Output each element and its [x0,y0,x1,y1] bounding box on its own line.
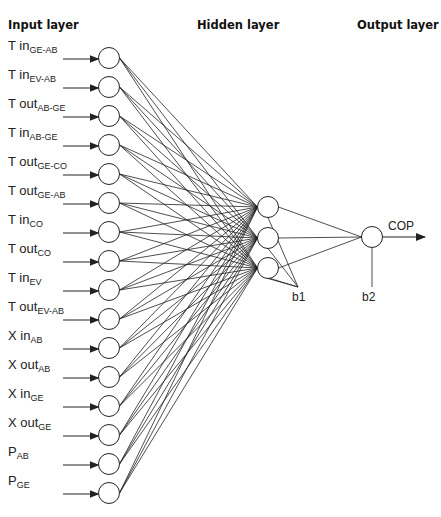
hidden-neuron [258,197,279,218]
input-neuron [99,164,120,185]
connection-line [120,238,258,493]
input-label: T outGE-AB [8,183,65,200]
connection-line [120,174,258,268]
input-label-subscript: AB-GE [37,103,65,113]
input-label-main: T in [8,125,29,140]
hidden-neuron [258,228,279,249]
input-label: T inGE-AB [8,38,57,55]
connection-line [120,203,258,268]
input-label-subscript: AB [38,364,50,374]
input-label: T inEV [8,270,41,287]
connection-line [279,237,362,268]
input-label-subscript: EV-AB [29,74,56,84]
input-label-subscript: CO [37,248,51,258]
input-label-subscript: GE-AB [29,45,57,55]
input-neuron [99,396,120,417]
input-label-subscript: EV-AB [37,306,64,316]
input-label-main: T out [8,241,37,256]
input-neuron [99,193,120,214]
connection-line [279,207,362,237]
input-label-main: T in [8,38,29,53]
input-neuron [99,367,120,388]
input-label-main: T in [8,212,29,227]
input-label: T inAB-GE [8,125,57,142]
input-label-subscript: GE [17,480,30,490]
connection-line [120,238,258,377]
connection-line [120,145,258,207]
input-label-main: T out [8,299,37,314]
input-label-subscript: GE [30,393,43,403]
output-neuron [362,227,383,248]
input-neuron [99,454,120,475]
input-label: X inGE [8,386,43,403]
input-label: T inEV-AB [8,67,56,84]
output-layer-title: Output layer [357,18,439,32]
input-label: X outAB [8,357,50,374]
neural-network-diagram [0,0,441,517]
input-neuron [99,425,120,446]
input-label: PGE [8,473,30,490]
input-label: T outAB-GE [8,96,65,113]
connection-line [120,238,258,435]
input-neuron [99,48,120,69]
hidden-neuron [258,258,279,279]
input-label: X inAB [8,328,42,345]
bias-label-b2: b2 [362,290,375,304]
input-neuron [99,135,120,156]
input-label-main: X out [8,415,38,430]
connection-line [279,237,362,238]
input-label-main: X in [8,328,30,343]
input-neuron [99,483,120,504]
input-label-subscript: AB [30,335,42,345]
input-label-subscript: GE-CO [37,161,67,171]
input-label-subscript: CO [29,219,43,229]
input-label-main: X out [8,357,38,372]
input-neuron [99,77,120,98]
hidden-layer-title: Hidden layer [197,18,279,32]
connection-line [120,174,258,207]
input-label-main: T out [8,154,37,169]
input-label: T inCO [8,212,43,229]
input-label-main: T out [8,96,37,111]
input-label: X outGE [8,415,51,432]
input-label-main: P [8,444,17,459]
input-neuron [99,222,120,243]
input-label: PAB [8,444,29,461]
input-neuron [99,338,120,359]
input-label-subscript: AB-GE [29,132,57,142]
input-label-main: P [8,473,17,488]
input-neuron [99,251,120,272]
input-label-subscript: GE [38,422,51,432]
input-neuron [99,106,120,127]
input-label-main: T in [8,67,29,82]
connection-line [120,58,258,207]
connection-line [120,116,258,207]
input-label-main: T in [8,270,29,285]
input-label: T outEV-AB [8,299,64,316]
connection-line [120,87,258,207]
input-label-main: X in [8,386,30,401]
input-label: T outGE-CO [8,154,67,171]
input-layer-title: Input layer [8,18,79,32]
input-label-subscript: EV [29,277,41,287]
connection-line [120,207,258,435]
input-neuron [99,280,120,301]
connection-line [120,207,258,464]
input-label-subscript: AB [17,451,29,461]
bias-label-b1: b1 [292,290,305,304]
output-label-cop: COP [388,219,414,233]
connection-line [120,207,258,261]
input-neuron [99,309,120,330]
input-label-main: T out [8,183,37,198]
input-label-subscript: GE-AB [37,190,65,200]
input-label: T outCO [8,241,51,258]
